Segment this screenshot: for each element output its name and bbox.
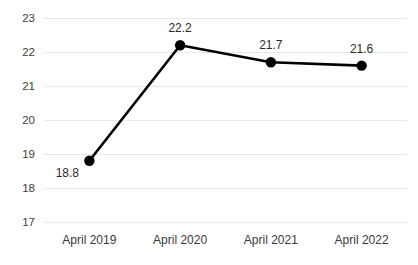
y-axis-tick-label: 19	[22, 148, 35, 160]
data-label: 18.8	[56, 166, 80, 180]
y-axis-tick-label: 20	[22, 114, 35, 126]
data-label: 21.6	[350, 42, 374, 56]
data-point-markers	[84, 40, 367, 166]
data-point-marker	[175, 40, 185, 50]
line-chart: 17181920212223 April 2019April 2020April…	[0, 0, 418, 265]
y-axis-tick-label: 23	[22, 12, 35, 24]
data-point-marker	[266, 57, 276, 67]
x-axis-tick-label: April 2022	[335, 233, 389, 247]
series-line	[89, 45, 361, 161]
y-axis-tick-label: 17	[22, 216, 35, 228]
y-axis-tick-labels: 17181920212223	[22, 12, 35, 228]
plot-area: 17181920212223 April 2019April 2020April…	[0, 0, 418, 265]
x-axis-tick-label: April 2021	[244, 233, 298, 247]
data-point-marker	[356, 60, 366, 70]
data-label: 22.2	[168, 21, 192, 35]
data-labels: 18.822.221.721.6	[56, 21, 374, 180]
x-axis-tick-labels: April 2019April 2020April 2021April 2022	[62, 233, 389, 247]
data-point-marker	[84, 156, 94, 166]
x-axis-tick-label: April 2020	[153, 233, 207, 247]
data-label: 21.7	[259, 38, 283, 52]
chart-canvas: 17181920212223 April 2019April 2020April…	[0, 0, 418, 265]
x-axis-tick-label: April 2019	[62, 233, 116, 247]
y-axis-tick-label: 22	[22, 46, 35, 58]
series-line-group	[89, 45, 361, 161]
y-axis-tick-label: 18	[22, 182, 35, 194]
y-axis-tick-label: 21	[22, 80, 35, 92]
